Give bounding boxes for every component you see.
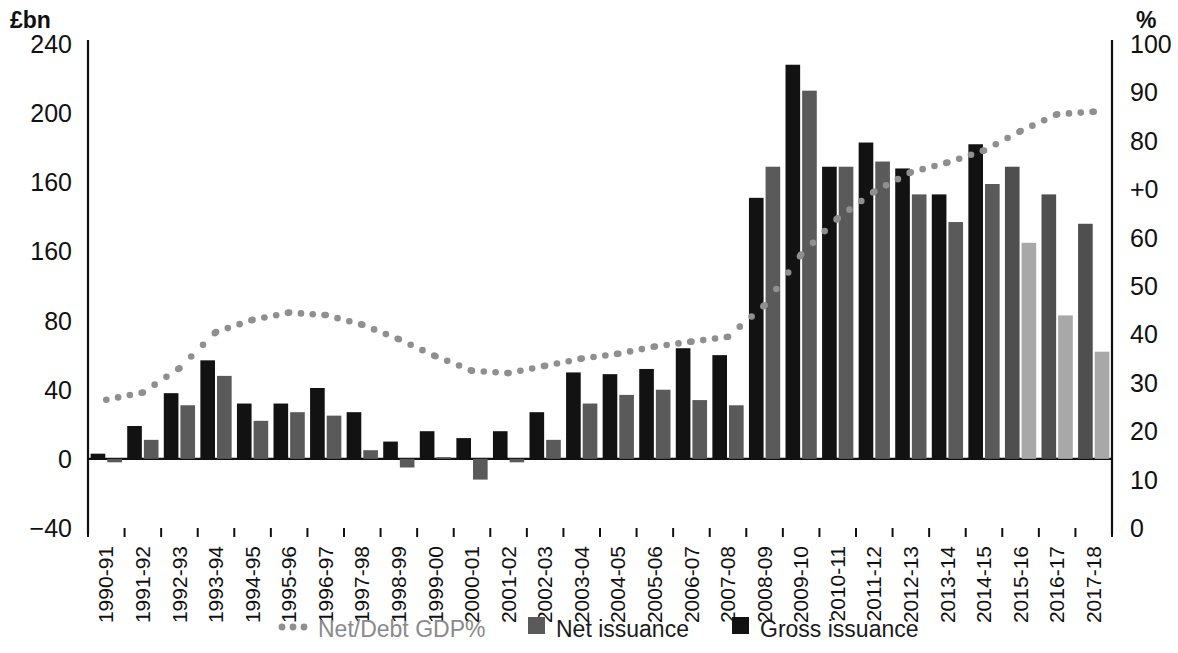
bar-gross-issuance[interactable] [310, 388, 325, 459]
bar-net-issuance[interactable] [180, 405, 195, 459]
legend-square-icon [732, 617, 749, 634]
bar-gross-issuance[interactable] [968, 144, 983, 459]
bar-gross-issuance[interactable] [895, 168, 910, 458]
bar-net-issuance[interactable] [473, 459, 488, 480]
ratio-dot [590, 354, 597, 361]
ratio-dot [225, 325, 232, 332]
bar-gross-issuance[interactable] [274, 404, 289, 459]
ratio-dot [871, 188, 878, 195]
bar-net-issuance[interactable] [1058, 315, 1073, 458]
ratio-dot [188, 353, 195, 360]
bar-gross-issuance[interactable] [164, 393, 179, 459]
bar-gross-issuance[interactable] [456, 438, 471, 459]
category-label: 2007-08 [716, 546, 739, 623]
bar-net-issuance[interactable] [254, 421, 269, 459]
ratio-dot [834, 215, 841, 222]
category-label: 2014-15 [972, 546, 995, 623]
category-label: 1995-96 [277, 546, 300, 623]
ratio-dot [371, 326, 378, 333]
bar-gross-issuance[interactable] [1042, 194, 1057, 458]
bar-net-issuance[interactable] [546, 440, 561, 459]
bar-net-issuance[interactable] [912, 194, 927, 458]
bar-net-issuance[interactable] [656, 390, 671, 459]
bar-gross-issuance[interactable] [1005, 167, 1020, 459]
bar-gross-issuance[interactable] [932, 194, 947, 458]
bar-gross-issuance[interactable] [493, 431, 508, 459]
bar-net-issuance[interactable] [436, 457, 451, 459]
category-label: 2003-04 [570, 546, 593, 623]
bar-gross-issuance[interactable] [749, 198, 764, 459]
bar-gross-issuance[interactable] [786, 65, 801, 459]
bar-net-issuance[interactable] [290, 412, 305, 459]
right-axis-tick-label: 30 [1130, 369, 1158, 397]
bar-gross-issuance[interactable] [420, 431, 435, 459]
bar-net-issuance[interactable] [583, 404, 598, 459]
ratio-dot [359, 321, 366, 328]
right-axis-tick-label: 50 [1130, 272, 1158, 300]
ratio-dot [140, 389, 147, 396]
category-label: 2011-12 [862, 546, 885, 622]
bar-net-issuance[interactable] [802, 91, 817, 459]
left-axis-tick-label: 160 [30, 237, 72, 265]
bar-net-issuance[interactable] [1095, 352, 1110, 459]
bar-gross-issuance[interactable] [712, 355, 727, 459]
bar-net-issuance[interactable] [327, 416, 342, 459]
bar-net-issuance[interactable] [985, 184, 1000, 459]
bar-gross-issuance[interactable] [530, 412, 545, 459]
bar-gross-issuance[interactable] [603, 374, 618, 459]
left-axis-tick-label: 0 [58, 445, 72, 473]
legend-item[interactable]: Net/Debt GDP% [279, 616, 486, 642]
ratio-dot [505, 370, 512, 377]
bar-gross-issuance[interactable] [200, 360, 215, 459]
bar-gross-issuance[interactable] [822, 167, 837, 459]
ratio-dot [627, 348, 634, 355]
ratio-dot [249, 317, 256, 324]
bar-gross-issuance[interactable] [127, 426, 142, 459]
left-axis-tick-label: −40 [30, 514, 72, 542]
bar-gross-issuance[interactable] [566, 372, 581, 458]
ratio-dot [127, 392, 134, 399]
category-label: 2004-05 [606, 546, 629, 623]
bar-net-issuance[interactable] [144, 440, 159, 459]
bar-net-issuance[interactable] [948, 222, 963, 459]
ratio-dot [956, 155, 963, 162]
bar-gross-issuance[interactable] [91, 454, 106, 459]
category-label: 1999-00 [424, 546, 447, 623]
bar-net-issuance[interactable] [217, 376, 232, 459]
right-axis-tick-label: 40 [1130, 320, 1158, 348]
ratio-dot [200, 342, 207, 349]
ratio-dot [346, 318, 353, 325]
category-label: 1990-91 [94, 546, 117, 623]
ratio-dot [712, 335, 719, 342]
bar-gross-issuance[interactable] [237, 404, 252, 459]
bar-net-issuance[interactable] [619, 395, 634, 459]
category-label: 2000-01 [460, 546, 483, 623]
ratio-dot [1054, 111, 1061, 118]
bar-net-issuance[interactable] [107, 459, 122, 462]
bar-gross-issuance[interactable] [676, 348, 691, 459]
ratio-dot [298, 310, 305, 317]
bar-net-issuance[interactable] [510, 459, 525, 462]
bar-net-issuance[interactable] [729, 405, 744, 459]
bar-net-issuance[interactable] [875, 162, 890, 459]
bar-net-issuance[interactable] [1022, 243, 1037, 459]
ratio-dot [858, 198, 865, 205]
bar-gross-issuance[interactable] [1078, 224, 1093, 459]
bar-net-issuance[interactable] [400, 459, 415, 468]
legend-item[interactable]: Gross issuance [732, 616, 919, 642]
legend-dots-icon [301, 624, 308, 631]
bar-gross-issuance[interactable] [383, 442, 398, 459]
bar-gross-issuance[interactable] [639, 369, 654, 459]
bar-gross-issuance[interactable] [347, 412, 362, 459]
bar-net-issuance[interactable] [692, 400, 707, 459]
category-label: 2009-10 [789, 546, 812, 623]
category-label: 2002-03 [533, 546, 556, 623]
category-label: 1998-99 [387, 546, 410, 623]
ratio-dot [554, 360, 561, 367]
bar-net-issuance[interactable] [363, 450, 378, 459]
ratio-dot [529, 365, 536, 372]
category-label: 2015-16 [1009, 546, 1032, 623]
bar-net-issuance[interactable] [766, 167, 781, 459]
ratio-dot [176, 365, 183, 372]
ratio-dot [1090, 108, 1097, 115]
